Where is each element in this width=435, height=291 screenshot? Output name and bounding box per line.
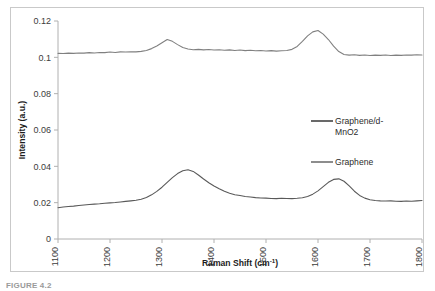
series-line-graphene-mno2 bbox=[58, 170, 422, 208]
y-axis-title: Intensity (a.u.) bbox=[17, 101, 27, 159]
y-tick-label: 0 bbox=[46, 234, 51, 244]
legend-label-graphene-mno2: Graphene/d- bbox=[335, 116, 383, 126]
x-tick-label: 1300 bbox=[154, 247, 164, 267]
legend-label-graphene: Graphene bbox=[335, 157, 373, 167]
y-tick-label: 0.12 bbox=[33, 16, 51, 26]
chart-legend: Graphene/d-MnO2Graphene bbox=[311, 116, 383, 167]
axis-titles: Intensity (a.u.)Raman Shift (cm-1) bbox=[17, 101, 278, 268]
y-tick-label: 0.06 bbox=[33, 125, 51, 135]
figure-root: 00.020.040.060.080.10.12 110012001300140… bbox=[0, 0, 435, 291]
y-axis-ticks: 00.020.040.060.080.10.12 bbox=[33, 16, 58, 244]
x-tick-label: 1200 bbox=[102, 247, 112, 267]
x-tick-label: 1700 bbox=[362, 247, 372, 267]
figure-caption-fragment: FIGURE 4.2 bbox=[6, 281, 126, 289]
x-tick-label: 1100 bbox=[50, 247, 60, 266]
y-tick-label: 0.08 bbox=[33, 89, 51, 99]
y-tick-label: 0.02 bbox=[33, 198, 51, 208]
legend-label-graphene-mno2-line2: MnO2 bbox=[335, 127, 359, 137]
chart-frame: 00.020.040.060.080.10.12 110012001300140… bbox=[10, 7, 424, 272]
raman-spectra-chart: 00.020.040.060.080.10.12 110012001300140… bbox=[11, 8, 423, 271]
series-line-graphene bbox=[58, 30, 422, 55]
y-tick-label: 0.1 bbox=[38, 53, 51, 63]
x-tick-label: 1600 bbox=[310, 247, 320, 267]
x-tick-label: 1800 bbox=[414, 247, 423, 267]
x-axis-title: Raman Shift (cm-1) bbox=[202, 257, 278, 268]
y-tick-label: 0.04 bbox=[33, 162, 51, 172]
